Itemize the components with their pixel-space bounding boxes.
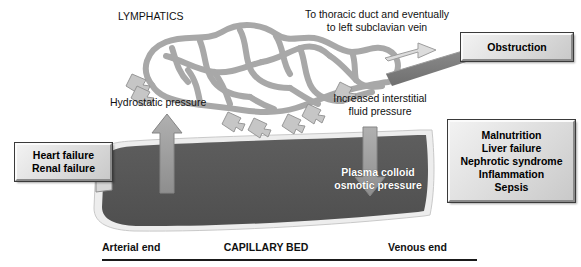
lymphatics-title: LYMPHATICS	[118, 10, 228, 23]
interstitial-pressure-label: Increased interstitial fluid pressure	[320, 92, 440, 117]
right-causes-box[interactable]: Malnutrition Liver failure Nephrotic syn…	[448, 120, 575, 202]
right-causes-box-label: Malnutrition Liver failure Nephrotic syn…	[460, 129, 562, 194]
hydrostatic-pressure-label: Hydrostatic pressure	[110, 96, 230, 109]
obstruction-box[interactable]: Obstruction	[461, 33, 573, 61]
left-causes-box[interactable]: Heart failure Renal failure	[15, 143, 112, 181]
venous-end-label: Venous end	[388, 241, 498, 254]
capillary-bed-label: CAPILLARY BED	[196, 241, 336, 254]
left-causes-box-label: Heart failure Renal failure	[32, 149, 95, 175]
obstruction-box-label: Obstruction	[487, 41, 547, 54]
baseline-rule	[102, 259, 477, 261]
edema-pathophysiology-diagram: LYMPHATICS To thoracic duct and eventual…	[0, 0, 581, 267]
thoracic-duct-label: To thoracic duct and eventually to left …	[292, 8, 462, 33]
oncotic-pressure-label: Plasma colloid osmotic pressure	[318, 166, 438, 191]
